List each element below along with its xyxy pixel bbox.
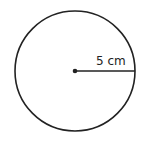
center-point bbox=[73, 69, 78, 74]
radius-label: 5 cm bbox=[96, 54, 126, 68]
circle-diagram: 5 cm bbox=[0, 0, 166, 151]
